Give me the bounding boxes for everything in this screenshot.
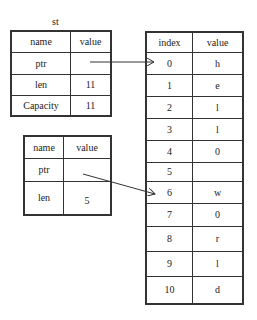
arrow-ptr-to-index-6 (83, 174, 155, 194)
pointer-arrows (0, 0, 257, 320)
